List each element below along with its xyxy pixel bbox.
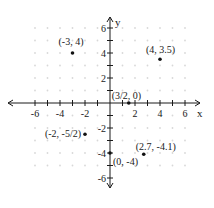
grid-dot [34,52,36,54]
grid-dot [97,140,99,142]
grid-dot [59,165,61,167]
grid-dot [147,40,149,42]
grid-dot [84,65,86,67]
grid-dot [184,40,186,42]
grid-dot [147,77,149,79]
grid-dot [184,27,186,29]
x-tick-label: 4 [158,108,163,119]
grid-dot [84,90,86,92]
grid-dot [34,65,36,67]
grid-dot [122,77,124,79]
grid-dot [172,77,174,79]
y-tick-label: 2 [101,73,106,84]
grid-dot [159,40,161,42]
y-tick-label: 4 [101,48,106,59]
grid-dot [172,65,174,67]
grid-dot [59,52,61,54]
data-point: (0, -4) [108,151,138,168]
grid-dot [34,165,36,167]
grid-dot [147,115,149,117]
x-tick-label: 6 [183,108,188,119]
grid-dot [159,127,161,129]
grid-dot [134,40,136,42]
grid-dot [134,52,136,54]
grid-dot [84,27,86,29]
grid-dot [172,40,174,42]
grid-dot [72,140,74,142]
grid-dot [184,152,186,154]
grid-dot [72,90,74,92]
grid-dot [34,127,36,129]
grid-dot [172,27,174,29]
point-marker-icon [83,132,87,136]
grid-dot [34,140,36,142]
grid-dot [184,165,186,167]
grid-dot [159,77,161,79]
grid-dot [184,65,186,67]
grid-dot [147,127,149,129]
grid-dot [47,165,49,167]
grid-dot [97,52,99,54]
grid-dot [122,140,124,142]
grid-dot [84,127,86,129]
grid-dot [34,90,36,92]
data-point: (-3, 4) [59,36,84,55]
grid-dot [97,115,99,117]
grid-dot [122,115,124,117]
grid-dot [72,27,74,29]
grid-dot [122,40,124,42]
grid-dot [47,65,49,67]
grid-dot [97,77,99,79]
grid-dot [184,52,186,54]
grid-dot [159,90,161,92]
grid-dot [47,27,49,29]
grid-dot [34,77,36,79]
grid-dot [122,52,124,54]
grid-dot [72,115,74,117]
grid-dot [34,40,36,42]
grid-dot [184,127,186,129]
point-marker-icon [127,101,131,105]
grid-dot [59,152,61,154]
x-tick-label: -6 [31,108,39,119]
point-label: (-3, 4) [59,36,84,48]
grid-dot [84,165,86,167]
grid-dot [34,27,36,29]
grid-dot [147,152,149,154]
x-tick-label: -2 [81,108,89,119]
grid-dot [72,65,74,67]
grid-dot [134,65,136,67]
grid-dot [59,27,61,29]
grid-dot [47,115,49,117]
y-axis-label: y [115,16,121,28]
point-label: (3/2, 0) [112,90,141,102]
grid-dot [134,127,136,129]
grid-dot [184,140,186,142]
grid-dot [97,40,99,42]
grid-dot [97,27,99,29]
grid-dot [97,90,99,92]
grid-dot [59,77,61,79]
grid-dot [147,65,149,67]
grid-dot [97,65,99,67]
point-marker-icon [142,152,146,156]
data-point: (-2, -5/2) [45,128,87,140]
point-label: (0, -4) [113,156,138,168]
grid-dot [159,27,161,29]
point-marker-icon [158,57,162,61]
grid-dot [172,115,174,117]
grid-dot [59,90,61,92]
grid-dot [47,152,49,154]
point-marker-icon [108,151,112,155]
grid-dot [147,90,149,92]
grid-dot [84,40,86,42]
grid-dot [172,90,174,92]
grid-dot [172,152,174,154]
coordinate-plane: x y -6-4-2246642-2-4-6 (-3, 4)(4, 3.5)(3… [0,0,214,208]
grid-dot [172,127,174,129]
grid-dot [184,77,186,79]
point-marker-icon [71,51,75,55]
y-tick-label: -4 [98,148,106,159]
grid-dot [47,140,49,142]
y-tick-label: -6 [98,173,106,184]
